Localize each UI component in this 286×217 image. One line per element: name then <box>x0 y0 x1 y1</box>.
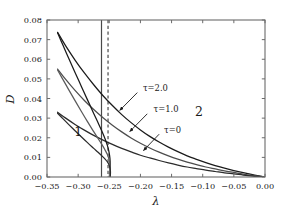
y-tick-label: 0.01 <box>24 152 42 162</box>
x-tick-label: −0.30 <box>66 181 91 191</box>
y-tick-label: 0.02 <box>24 133 42 143</box>
region-1-label: 1 <box>74 124 82 139</box>
y-tick-label: 0.06 <box>24 54 42 64</box>
tau-2-label: τ=2.0 <box>143 83 168 93</box>
plot-frame <box>47 20 265 177</box>
figure-container: −0.35−0.30−0.25−0.20−0.15−0.10−0.050.00 … <box>0 0 286 217</box>
x-tick-label: −0.05 <box>221 181 246 191</box>
y-axis-title: D <box>3 94 17 104</box>
x-tick-label: 0.00 <box>256 181 274 191</box>
x-axis-title: λ <box>151 194 159 208</box>
tau-0-label: τ=0 <box>164 125 181 135</box>
curve-line <box>58 70 111 177</box>
region-2-label: 2 <box>195 104 203 119</box>
x-tick-label: −0.35 <box>34 181 59 191</box>
x-tick-label: −0.20 <box>128 181 153 191</box>
y-tick-label: 0.08 <box>24 15 42 25</box>
x-tick-label: −0.25 <box>97 181 122 191</box>
y-tick-label: 0.04 <box>24 94 42 104</box>
y-tick-label: 0.07 <box>24 35 42 45</box>
x-tick-label: −0.15 <box>159 181 184 191</box>
annotations-layer: τ=2.0τ=1.0τ=012 <box>74 83 203 151</box>
curve-line <box>58 33 111 177</box>
y-tick-label: 0.03 <box>24 113 42 123</box>
x-tick-label: −0.10 <box>190 181 215 191</box>
y-tick-label: 0.00 <box>24 172 42 182</box>
tau-2-label-arrow <box>120 93 137 111</box>
y-tick-label: 0.05 <box>24 74 42 84</box>
tau-1-label: τ=1.0 <box>154 104 179 114</box>
chart-canvas: −0.35−0.30−0.25−0.20−0.15−0.10−0.050.00 … <box>0 0 286 217</box>
